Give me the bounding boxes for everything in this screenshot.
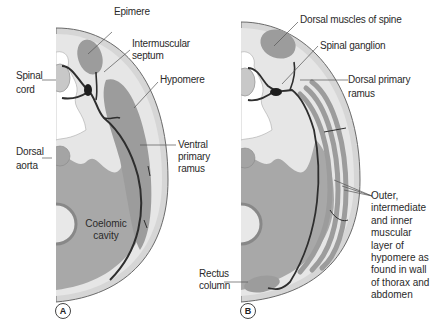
- dorsal-aorta-a: [50, 146, 70, 166]
- epimere-branch-a: [96, 72, 97, 100]
- muscle-layers-line: of thorax and: [371, 277, 429, 289]
- label-dorsal-primary-ramus-line1: Dorsal primary: [348, 74, 410, 86]
- label-spinal-cord-line1: Spinal: [16, 70, 43, 82]
- label-hypomere: Hypomere: [160, 74, 205, 86]
- panel-badge-b: B: [240, 303, 256, 319]
- label-epimere: Epimere: [114, 6, 150, 18]
- label-rectus-column-line1: Rectus: [199, 268, 229, 280]
- dorsal-aorta-b: [235, 148, 255, 168]
- label-ventral-primary-ramus-line1: Ventral: [178, 139, 208, 151]
- gut-ring-a: [36, 204, 76, 244]
- label-ventral-primary-ramus-line3: ramus: [178, 163, 205, 175]
- muscle-layers-line: muscular: [371, 227, 429, 239]
- muscle-layers-line: and inner: [371, 215, 429, 227]
- label-dorsal-aorta-line1: Dorsal: [16, 146, 44, 158]
- panel-badge-a: A: [55, 303, 71, 319]
- spinal-cord-b: [235, 68, 255, 96]
- muscle-layers-line: Outer,: [371, 190, 429, 202]
- muscle-layers-line: layer of: [371, 240, 429, 252]
- ganglion-b: [270, 88, 282, 96]
- label-dorsal-primary-ramus-line2: ramus: [348, 88, 375, 100]
- label-coelomic-cavity-line2: cavity: [84, 230, 128, 242]
- muscle-layers-line: intermediate: [371, 202, 429, 214]
- label-coelomic-cavity-line1: Coelomic: [84, 218, 128, 230]
- panel-a-drawing: [36, 28, 168, 302]
- gut-ring-b: [221, 204, 261, 244]
- muscle-layers-line: hypomere as: [371, 252, 429, 264]
- muscle-layers-line: found in wall: [371, 264, 429, 276]
- label-ventral-primary-ramus-line2: primary: [178, 151, 210, 163]
- label-intermuscular-septum-line2: septum: [132, 50, 164, 62]
- muscle-layers-line: abdomen: [371, 289, 429, 301]
- panel-b-drawing: [221, 22, 360, 302]
- label-rectus-column-line2: column: [199, 280, 230, 292]
- label-dorsal-muscles-of-spine: Dorsal muscles of spine: [300, 14, 402, 26]
- label-spinal-cord-line2: cord: [16, 84, 35, 96]
- ganglion-a: [84, 84, 92, 96]
- label-intermuscular-septum-line1: Intermuscular: [132, 38, 190, 50]
- label-dorsal-aorta-line2: aorta: [16, 160, 38, 172]
- label-muscle-layers: Outer, intermediate and inner muscular l…: [371, 190, 429, 302]
- label-spinal-ganglion: Spinal ganglion: [320, 40, 385, 52]
